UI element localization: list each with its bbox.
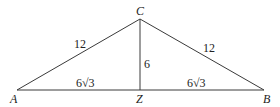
length-label-cb: 12 — [203, 41, 215, 55]
triangle-diagram: C A Z B 12 12 6 6√3 6√3 — [0, 0, 280, 107]
length-label-az: 6√3 — [76, 76, 95, 90]
vertex-label-z: Z — [136, 92, 143, 106]
length-label-cz: 6 — [144, 57, 150, 71]
length-label-zb: 6√3 — [187, 76, 206, 90]
vertex-label-b: B — [263, 92, 271, 106]
vertex-label-c: C — [136, 4, 145, 18]
length-label-ac: 12 — [74, 37, 86, 51]
vertex-label-a: A — [9, 92, 18, 106]
diagram-canvas: C A Z B 12 12 6 6√3 6√3 — [0, 0, 280, 107]
